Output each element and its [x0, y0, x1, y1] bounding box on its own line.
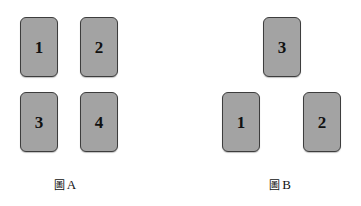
figure-b-caption-letter: B	[282, 177, 291, 192]
card-b-3[interactable]: 3	[263, 17, 301, 77]
card-b-1[interactable]: 1	[222, 92, 260, 152]
card-label: 3	[278, 39, 287, 56]
figure-b-caption: 圖B	[220, 176, 340, 193]
card-label: 2	[318, 114, 327, 131]
figure-b-group: 3 1 2 圖B	[0, 0, 361, 206]
figure-b-caption-cjk: 圖	[269, 179, 280, 192]
figure-canvas: 1 2 3 4 圖A 3 1 2 圖B	[0, 0, 361, 206]
card-label: 1	[237, 114, 246, 131]
card-b-2[interactable]: 2	[303, 92, 341, 152]
